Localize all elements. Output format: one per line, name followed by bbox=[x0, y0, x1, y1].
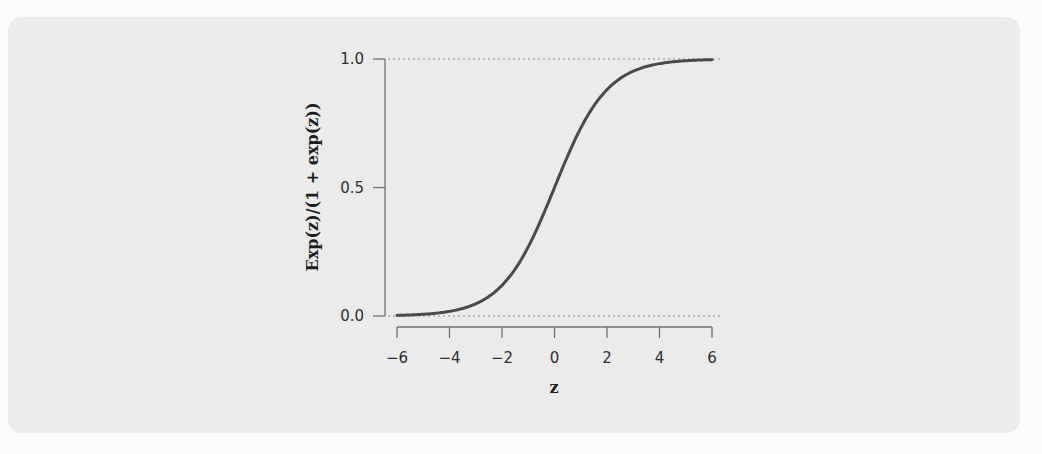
y-tick-label: 1.0 bbox=[340, 50, 364, 68]
logistic-curve bbox=[397, 60, 712, 316]
y-axis-ticks: 0.00.51.0 bbox=[340, 50, 385, 325]
y-tick-label: 0.5 bbox=[340, 179, 364, 197]
x-tick-label: 2 bbox=[602, 349, 612, 367]
y-tick-label: 0.0 bbox=[340, 307, 364, 325]
x-axis-ticks: −6−4−20246 bbox=[386, 327, 717, 367]
y-axis-title: Exp(z)/(1 + exp(z)) bbox=[303, 103, 322, 272]
x-tick-label: 0 bbox=[550, 349, 560, 367]
x-axis-title: z bbox=[549, 378, 558, 397]
x-tick-label: −4 bbox=[438, 349, 460, 367]
x-tick-label: 4 bbox=[655, 349, 665, 367]
x-tick-label: −6 bbox=[386, 349, 408, 367]
x-tick-label: −2 bbox=[491, 349, 513, 367]
logistic-chart: 0.00.51.0 −6−4−20246 z Exp(z)/(1 + exp(z… bbox=[0, 0, 1042, 454]
x-tick-label: 6 bbox=[707, 349, 717, 367]
